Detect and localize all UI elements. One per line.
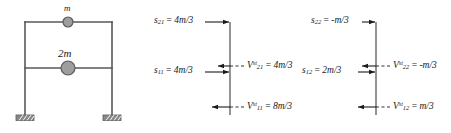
fbd-second-mode: s22 = -m/3 s12 = 2m/3 Vst22 = -m/3 Vst12… bbox=[300, 0, 451, 133]
top-mass-node bbox=[63, 17, 73, 27]
fbd-first-mode: s21 = 4m/3 s11 = 4m/3 Vst21 = 4m/3 Vst11… bbox=[150, 0, 300, 133]
s12-subscript: 12 bbox=[306, 68, 313, 75]
s11-value: 4m/3 bbox=[174, 65, 193, 75]
v12-subscript: 12 bbox=[403, 104, 410, 111]
v22-subscript: 22 bbox=[403, 63, 410, 70]
v12-equation: Vst12 = m/3 bbox=[393, 101, 434, 111]
v11-equation: Vst11 = 8m/3 bbox=[247, 101, 292, 111]
figure-canvas: m 2m bbox=[0, 0, 451, 133]
s22-subscript: 22 bbox=[315, 18, 322, 25]
v21-value: 4m/3 bbox=[273, 60, 292, 70]
s22-equation: s22 = -m/3 bbox=[311, 16, 349, 26]
s12-equation: s12 = 2m/3 bbox=[302, 66, 341, 76]
v22-value: -m/3 bbox=[419, 60, 436, 70]
v21-equation: Vst21 = 4m/3 bbox=[247, 60, 292, 70]
s21-value: 4m/3 bbox=[174, 15, 193, 25]
mid-mass-node bbox=[61, 61, 75, 75]
v21-subscript: 21 bbox=[257, 63, 264, 70]
s21-subscript: 21 bbox=[158, 18, 165, 25]
v22-equation: Vst22 = -m/3 bbox=[393, 60, 437, 70]
s22-value: -m/3 bbox=[331, 15, 348, 25]
s11-equation: s11 = 4m/3 bbox=[154, 66, 193, 76]
s12-value: 2m/3 bbox=[322, 65, 341, 75]
s11-subscript: 11 bbox=[158, 68, 164, 75]
s21-equation: s21 = 4m/3 bbox=[154, 16, 193, 26]
mid-mass-label: 2m bbox=[58, 48, 71, 59]
v11-subscript: 11 bbox=[257, 104, 263, 111]
top-mass-label: m bbox=[64, 4, 71, 13]
v11-value: 8m/3 bbox=[273, 101, 292, 111]
frame-svg bbox=[0, 0, 150, 133]
left-support bbox=[16, 115, 34, 121]
frame-diagram: m 2m bbox=[0, 0, 150, 133]
right-support bbox=[103, 115, 121, 121]
v12-value: m/3 bbox=[419, 101, 433, 111]
